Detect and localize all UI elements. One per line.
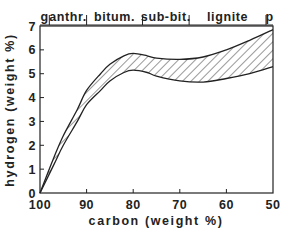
y-tick-label: 6: [29, 43, 36, 57]
y-tick-label: 4: [29, 91, 36, 105]
rank-label-g: g: [41, 10, 49, 24]
y-tick-label: 5: [29, 67, 36, 81]
chart-canvas: ganthr.bitum.sub-bit.lignitep 1009080706…: [0, 0, 295, 238]
coal-rank-band: ganthr.bitum.sub-bit.lignitep: [40, 10, 274, 25]
y-tick-label: 2: [29, 139, 36, 153]
rank-label-anthr: anthr.: [49, 10, 87, 24]
hydrogen-range-band: [40, 30, 273, 193]
y-axis: 01234567: [29, 20, 44, 201]
x-tick-label: 50: [266, 198, 281, 212]
y-tick-label: 7: [29, 20, 36, 34]
x-axis-label: carbon (weight %): [89, 214, 224, 228]
lower-bound-curve: [40, 67, 273, 193]
y-tick-label: 3: [29, 115, 36, 129]
y-tick-label: 1: [29, 163, 36, 177]
y-tick-label: 0: [29, 187, 36, 201]
x-tick-label: 80: [126, 198, 141, 212]
x-tick-label: 70: [172, 198, 187, 212]
rank-label-subbit: sub-bit.: [141, 10, 191, 24]
y-axis-label: hydrogen (weight %): [3, 33, 17, 186]
rank-label-lignite: lignite: [207, 10, 248, 24]
rank-label-p: p: [265, 10, 273, 24]
rank-label-bitum: bitum.: [94, 10, 135, 24]
x-tick-label: 60: [219, 198, 234, 212]
x-tick-label: 90: [79, 198, 94, 212]
